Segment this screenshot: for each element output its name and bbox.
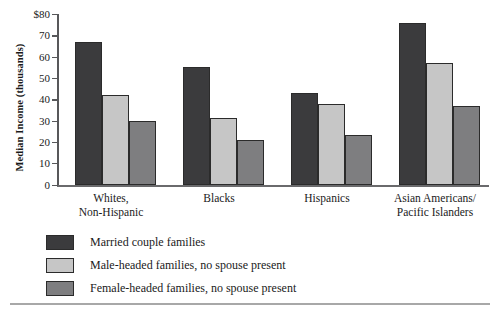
y-tick-label: 60 [39,51,50,62]
bar [237,140,264,185]
y-tick-mark [52,78,58,79]
y-tick-mark [52,185,58,186]
y-tick-label: 50 [39,72,50,83]
bar [345,135,372,184]
y-tick-mark [52,121,58,122]
bar [183,67,210,184]
legend-label: Married couple families [90,235,205,250]
legend-item: Male-headed families, no spouse present [46,254,296,277]
category-label: Blacks [165,192,273,206]
bar [399,23,426,185]
legend-swatch [46,258,74,273]
bar [210,118,237,184]
bar [426,63,453,184]
bar-group [75,14,156,186]
bar-group [183,14,264,186]
y-tick-label: 20 [39,136,50,147]
y-tick-label: 40 [39,94,50,105]
y-tick-label: 70 [39,30,50,41]
y-tick-mark [52,14,58,15]
legend-item: Female-headed families, no spouse presen… [46,277,296,300]
bar [129,121,156,185]
category-label: Asian Americans/ Pacific Islanders [381,192,489,219]
y-tick-mark [52,99,58,100]
plot-area: 010203040506070$80 Whites, Non-HispanicB… [57,14,489,186]
y-tick-label: 30 [39,115,50,126]
bar [318,104,345,185]
y-tick-mark [52,142,58,143]
legend-swatch [46,281,74,296]
bar-chart-figure: Median Income (thousands) 01020304050607… [0,0,500,314]
chart-legend: Married couple familiesMale-headed famil… [46,231,296,300]
legend-label: Male-headed families, no spouse present [90,258,286,273]
bar-group [399,14,480,186]
bar [102,95,129,185]
category-label: Hispanics [273,192,381,206]
y-tick-mark [52,163,58,164]
y-tick-mark [52,57,58,58]
bar [291,93,318,185]
bottom-divider [10,303,490,305]
y-tick-label: $80 [34,9,51,20]
y-tick-label: 10 [39,158,50,169]
bar [453,106,480,185]
legend-label: Female-headed families, no spouse presen… [90,281,296,296]
y-tick-mark [52,35,58,36]
y-axis-title: Median Income (thousands) [14,20,25,195]
bar [75,42,102,185]
legend-swatch [46,235,74,250]
y-tick-label: 0 [45,179,51,190]
category-label: Whites, Non-Hispanic [57,192,165,219]
legend-item: Married couple families [46,231,296,254]
bar-group [291,14,372,186]
